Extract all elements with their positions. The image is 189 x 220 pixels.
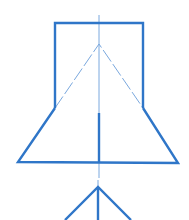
geometric-figure: [0, 0, 189, 220]
diagram-canvas: [0, 0, 189, 220]
